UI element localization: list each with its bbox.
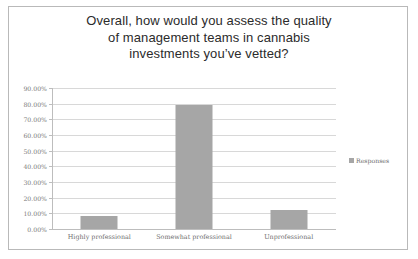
x-tick-label-somewhat-professional: Somewhat professional: [147, 233, 242, 241]
bar-series-responses: [52, 88, 336, 229]
bar-slot-highly-professional: [52, 88, 147, 229]
legend-swatch-icon: [349, 158, 354, 163]
y-axis-labels: 90.00% 80.00% 70.00% 60.00% 50.00% 40.00…: [9, 88, 49, 229]
x-tick-label-unprofessional: Unprofessional: [241, 233, 336, 241]
y-tick-mark-0: [49, 229, 52, 230]
bar-somewhat-professional[interactable]: [175, 105, 212, 229]
chart-title-line-1: Overall, how would you assess the qualit…: [39, 13, 379, 30]
x-axis-labels: Highly professional Somewhat professiona…: [52, 233, 336, 247]
y-tick-label-60: 60.00%: [23, 131, 47, 138]
y-tick-label-80: 80.00%: [23, 100, 47, 107]
chart-title: Overall, how would you assess the qualit…: [39, 13, 379, 63]
bar-slot-unprofessional: [241, 88, 336, 229]
legend-label-responses: Responses: [356, 157, 389, 164]
chart-frame: Overall, how would you assess the qualit…: [8, 6, 408, 250]
y-tick-label-30: 30.00%: [23, 178, 47, 185]
bar-highly-professional[interactable]: [81, 216, 118, 229]
chart-title-line-2: of management teams in cannabis: [39, 30, 379, 47]
gridline-baseline: [52, 229, 336, 230]
bar-slot-somewhat-professional: [147, 88, 242, 229]
y-tick-label-0: 0.00%: [27, 226, 47, 233]
x-tick-label-highly-professional: Highly professional: [52, 233, 147, 241]
y-tick-label-50: 50.00%: [23, 147, 47, 154]
chart-legend: Responses: [349, 157, 389, 164]
bar-unprofessional[interactable]: [270, 210, 307, 229]
plot-area: [52, 88, 336, 229]
y-tick-label-70: 70.00%: [23, 116, 47, 123]
y-tick-label-40: 40.00%: [23, 163, 47, 170]
y-tick-label-90: 90.00%: [23, 85, 47, 92]
y-tick-label-10: 10.00%: [23, 210, 47, 217]
chart-title-line-3: investments you’ve vetted?: [39, 46, 379, 63]
y-tick-label-20: 20.00%: [23, 194, 47, 201]
